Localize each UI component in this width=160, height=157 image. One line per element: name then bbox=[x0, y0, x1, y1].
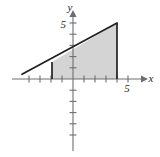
y-tick-label-5: 5 bbox=[61, 18, 67, 30]
x-tick-label-5: 5 bbox=[124, 82, 130, 94]
x-axis-label: x bbox=[148, 72, 154, 84]
y-axis-label: y bbox=[67, 1, 73, 13]
figure-container: y x 5 5 bbox=[0, 0, 160, 157]
shaded-region bbox=[52, 23, 117, 79]
x-axis-arrow-icon bbox=[141, 75, 148, 82]
plot-svg: y x 5 5 bbox=[0, 0, 160, 157]
